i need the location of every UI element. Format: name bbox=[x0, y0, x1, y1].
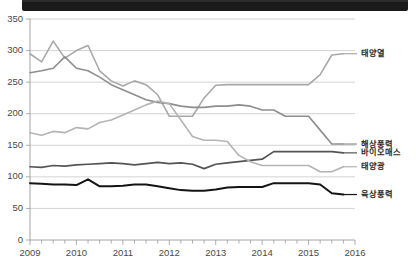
x-tick-label: 2010 bbox=[66, 247, 87, 258]
series-line-해상풍력 bbox=[30, 57, 343, 144]
series-label-태양열: 태양열 bbox=[361, 48, 385, 58]
series-labels: 태양열해상풍력바이오매스태양광육상풍력 bbox=[343, 48, 401, 199]
series-label-태양광: 태양광 bbox=[361, 161, 385, 171]
chart-page: 050100150200250300350 200920102011201220… bbox=[0, 0, 416, 267]
chart-svg: 050100150200250300350 200920102011201220… bbox=[0, 0, 416, 267]
series-line-육상풍력 bbox=[30, 179, 343, 194]
x-axis: 20092010201120122013201420152016 bbox=[19, 240, 365, 258]
y-tick-label: 200 bbox=[7, 107, 23, 118]
y-tick-label: 150 bbox=[7, 139, 23, 150]
series-label-바이오매스: 바이오매스 bbox=[361, 147, 401, 157]
series-line-태양열 bbox=[30, 41, 343, 116]
y-tick-label: 0 bbox=[18, 234, 23, 245]
x-tick-label: 2013 bbox=[205, 247, 226, 258]
data-lines bbox=[30, 41, 343, 194]
series-label-육상풍력: 육상풍력 bbox=[361, 189, 393, 199]
x-tick-label: 2012 bbox=[159, 247, 180, 258]
x-tick-label: 2011 bbox=[113, 247, 133, 258]
line-chart: 050100150200250300350 200920102011201220… bbox=[0, 0, 416, 267]
x-tick-label: 2014 bbox=[252, 247, 273, 258]
y-tick-label: 250 bbox=[7, 76, 23, 87]
y-axis-ticks: 050100150200250300350 bbox=[7, 13, 30, 245]
y-tick-label: 100 bbox=[7, 170, 23, 181]
y-tick-label: 50 bbox=[12, 202, 23, 213]
gridlines bbox=[30, 19, 355, 208]
x-tick-label: 2009 bbox=[19, 247, 40, 258]
y-tick-label: 300 bbox=[7, 44, 23, 55]
y-tick-label: 350 bbox=[7, 13, 23, 24]
x-tick-label: 2016 bbox=[344, 247, 365, 258]
x-tick-label: 2015 bbox=[298, 247, 319, 258]
series-line-태양광 bbox=[30, 101, 343, 172]
